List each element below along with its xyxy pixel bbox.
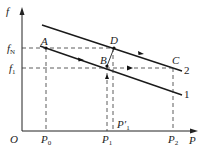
point-label-C: C (172, 55, 179, 66)
y-axis-label: f (6, 6, 9, 17)
point-label-A: A (41, 36, 48, 47)
point-D (112, 46, 115, 49)
y-tick-f1: f1 (9, 63, 16, 76)
line-2 (42, 25, 182, 71)
y-tick-fN: fN (7, 43, 15, 56)
curve-label-1: 1 (184, 89, 190, 100)
line-1 (40, 46, 182, 95)
x-tick-P1: P1 (102, 134, 112, 147)
arrow-up-at-B-icon (105, 74, 109, 79)
frequency-power-diagram: f P O fN f1 P0 P1 P′1 P2 A D B C 2 1 (0, 0, 201, 152)
curve-label-2: 2 (184, 65, 190, 76)
y-axis-arrow-icon (20, 7, 25, 15)
diagram-graphics (0, 0, 201, 152)
arrow-B-to-C-icon (127, 66, 133, 71)
x-axis-arrow-icon (190, 129, 198, 134)
point-label-B: B (100, 55, 107, 66)
x-tick-P1prime: P′1 (117, 119, 130, 132)
x-axis-label: P (189, 135, 196, 146)
x-tick-P0: P0 (41, 134, 51, 147)
arrow-on-line-2-icon (138, 51, 144, 55)
x-tick-P2: P2 (168, 134, 178, 147)
origin-label: O (10, 134, 18, 145)
point-label-D: D (110, 35, 118, 46)
